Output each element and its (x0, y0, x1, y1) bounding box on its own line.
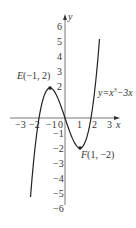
svg-text:−6: −6 (53, 203, 64, 214)
svg-text:−4: −4 (53, 173, 64, 184)
curve-label: y=x3−3x (97, 87, 133, 98)
point-f-label: F(1, −2) (80, 149, 114, 161)
function-graph: x y −3 −2 −1 0 1 2 3 6 5 4 3 2 −1 −2 −3 … (0, 0, 136, 228)
svg-text:6: 6 (57, 21, 62, 32)
point-e-marker (48, 86, 52, 90)
point-e-label: E(−1, 2) (16, 70, 50, 82)
svg-text:−5: −5 (53, 188, 64, 199)
svg-text:−2: −2 (53, 143, 64, 154)
x-axis-label: x (115, 119, 121, 130)
svg-text:−3: −3 (15, 119, 26, 130)
svg-text:1: 1 (77, 119, 82, 130)
y-tick-labels: 6 5 4 3 2 −1 −2 −3 −4 −5 −6 (53, 21, 64, 214)
svg-text:5: 5 (57, 36, 62, 47)
y-axis-arrow-icon (63, 14, 67, 20)
svg-text:3: 3 (57, 66, 62, 77)
svg-text:2: 2 (92, 119, 97, 130)
y-axis-label: y (67, 11, 73, 22)
svg-text:−1: −1 (53, 128, 64, 139)
svg-text:−3: −3 (53, 158, 64, 169)
svg-text:4: 4 (57, 51, 62, 62)
svg-text:3: 3 (107, 119, 112, 130)
svg-text:2: 2 (57, 81, 62, 92)
